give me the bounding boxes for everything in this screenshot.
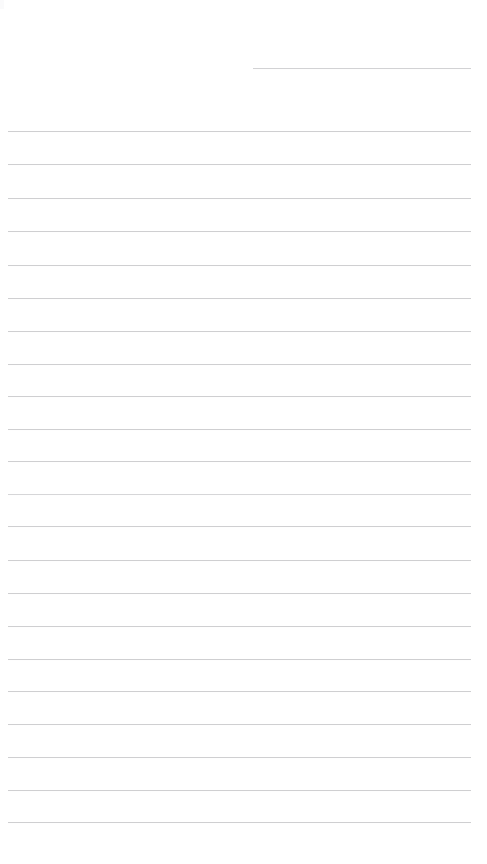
writing-area[interactable] [0,0,487,864]
lined-page [0,0,487,864]
